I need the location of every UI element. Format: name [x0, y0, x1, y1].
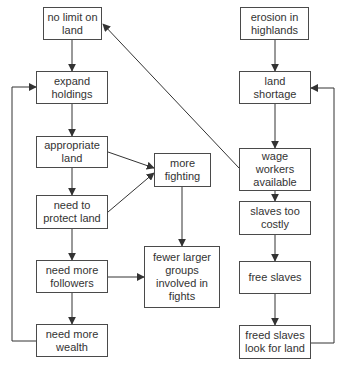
node-label: slaves too costly — [242, 205, 308, 231]
node-label: need more wealth — [39, 328, 105, 354]
node-label: erosion in highlands — [243, 11, 306, 37]
edge-appropriate-to-fighting — [108, 152, 154, 168]
node-label: appropriate land — [39, 139, 105, 165]
node-freed-slaves-look-for-land: freed slaves look for land — [239, 325, 311, 359]
node-erosion-in-highlands: erosion in highlands — [240, 7, 309, 40]
node-label: more fighting — [157, 157, 208, 183]
edge-protect-to-fighting — [108, 173, 154, 212]
node-wage-workers-available: wage workers available — [239, 148, 311, 191]
node-fewer-larger-groups: fewer larger groups involved in fights — [144, 246, 220, 308]
node-label: need more followers — [39, 264, 105, 290]
node-label: land shortage — [242, 75, 308, 101]
edge-freed-to-shortage — [311, 88, 334, 343]
node-label: fewer larger groups involved in fights — [147, 251, 217, 303]
node-no-limit-on-land: no limit on land — [43, 7, 102, 40]
edge-wealth-to-expand — [12, 87, 36, 341]
node-appropriate-land: appropriate land — [36, 136, 108, 168]
node-land-shortage: land shortage — [239, 71, 311, 104]
flowchart-diagram: no limit on land expand holdings appropr… — [0, 0, 344, 366]
node-need-more-wealth: need more wealth — [36, 324, 108, 357]
node-slaves-too-costly: slaves too costly — [239, 201, 311, 235]
node-free-slaves: free slaves — [239, 261, 311, 294]
edge-wage-to-no_limit — [103, 24, 239, 168]
node-label: free slaves — [248, 271, 301, 284]
node-need-more-followers: need more followers — [36, 260, 108, 293]
node-label: need to protect land — [39, 199, 105, 225]
node-label: wage workers available — [242, 150, 308, 189]
node-label: expand holdings — [39, 75, 105, 101]
node-expand-holdings: expand holdings — [36, 71, 108, 104]
node-label: no limit on land — [46, 11, 99, 37]
node-more-fighting: more fighting — [154, 153, 211, 187]
node-label: freed slaves look for land — [242, 329, 308, 355]
node-need-to-protect-land: need to protect land — [36, 195, 108, 229]
